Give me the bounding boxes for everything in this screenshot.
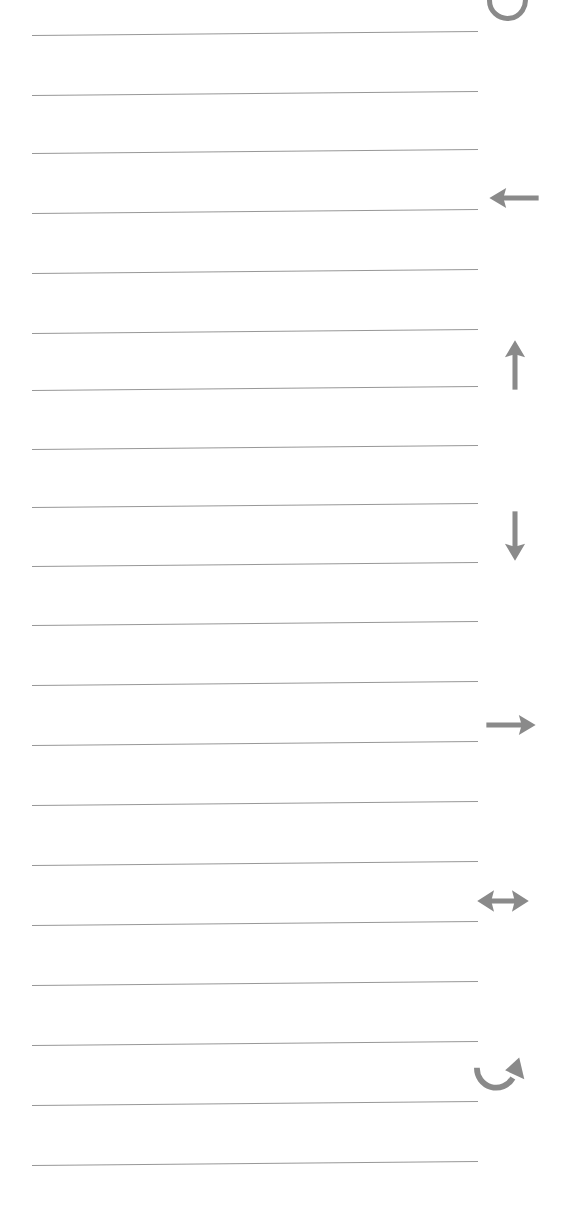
arrow-left-icon[interactable] — [486, 170, 542, 226]
rotate-counterclockwise-icon[interactable] — [482, 0, 538, 30]
arrow-right-icon[interactable] — [483, 697, 539, 753]
rotate-clockwise-icon[interactable] — [468, 1046, 532, 1110]
arrow-up-icon[interactable] — [487, 337, 543, 393]
ruled-page — [0, 0, 574, 1218]
arrow-left-right-icon[interactable] — [475, 873, 531, 929]
margin-icons-group — [0, 0, 574, 1218]
arrow-down-icon[interactable] — [487, 508, 543, 564]
